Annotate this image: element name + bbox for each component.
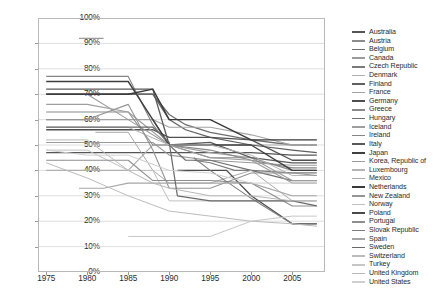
legend-item[interactable]: Norway xyxy=(352,200,434,209)
legend-item[interactable]: Italy xyxy=(352,140,434,149)
legend-swatch xyxy=(352,135,365,137)
legend-item[interactable]: Mexico xyxy=(352,174,434,183)
legend-label: Czech Republic xyxy=(369,62,418,71)
legend-item[interactable]: Canada xyxy=(352,54,434,63)
x-axis-tick-label: 1990 xyxy=(152,274,186,283)
legend-swatch xyxy=(352,169,365,171)
legend-label: Canada xyxy=(369,54,393,63)
legend-item[interactable]: Switzerland xyxy=(352,252,434,261)
legend-label: Australia xyxy=(369,28,396,37)
legend-item[interactable]: Denmark xyxy=(352,71,434,80)
legend-label: Japan xyxy=(369,149,388,158)
legend-swatch xyxy=(352,152,365,154)
x-axis-tick-label: 2005 xyxy=(275,274,309,283)
legend-swatch xyxy=(352,143,365,145)
legend-item[interactable]: Ireland xyxy=(352,131,434,140)
legend-swatch xyxy=(352,195,365,197)
plot-area xyxy=(38,18,325,272)
legend-item[interactable]: Belgium xyxy=(352,45,434,54)
legend-swatch xyxy=(352,126,365,128)
legend-label: Sweden xyxy=(369,243,394,252)
x-axis-tick-mark xyxy=(46,272,47,275)
legend: AustraliaAustriaBelgiumCanadaCzech Repub… xyxy=(352,28,434,286)
legend-item[interactable]: Australia xyxy=(352,28,434,37)
legend-label: Korea, Republic of xyxy=(369,157,426,166)
legend-swatch xyxy=(352,178,365,180)
legend-label: Switzerland xyxy=(369,252,405,261)
legend-swatch xyxy=(352,281,365,283)
legend-label: Poland xyxy=(369,209,391,218)
legend-item[interactable]: Poland xyxy=(352,209,434,218)
legend-item[interactable]: Germany xyxy=(352,97,434,106)
legend-label: Luxembourg xyxy=(369,166,408,175)
legend-label: Iceland xyxy=(369,123,391,132)
legend-swatch xyxy=(352,66,365,68)
legend-item[interactable]: Netherlands xyxy=(352,183,434,192)
legend-swatch xyxy=(352,255,365,257)
legend-swatch xyxy=(352,186,365,188)
legend-label: Italy xyxy=(369,140,382,149)
x-axis-tick-label: 2000 xyxy=(234,274,268,283)
legend-item[interactable]: Czech Republic xyxy=(352,62,434,71)
legend-label: Norway xyxy=(369,200,393,209)
legend-swatch xyxy=(352,221,365,223)
legend-item[interactable]: Turkey xyxy=(352,260,434,269)
legend-item[interactable]: United States xyxy=(352,278,434,287)
legend-swatch xyxy=(352,161,365,163)
legend-item[interactable]: Hungary xyxy=(352,114,434,123)
x-axis-tick-label: 1975 xyxy=(29,274,63,283)
legend-swatch xyxy=(352,31,365,33)
legend-item[interactable]: Spain xyxy=(352,235,434,244)
legend-item[interactable]: Greece xyxy=(352,105,434,114)
legend-item[interactable]: Korea, Republic of xyxy=(352,157,434,166)
legend-label: Mexico xyxy=(369,174,391,183)
legend-item[interactable]: Slovak Republic xyxy=(352,226,434,235)
x-axis-tick-mark xyxy=(292,272,293,275)
x-axis-tick-label: 1995 xyxy=(193,274,227,283)
chart-screenshot: 0%10%20%30%40%50%60%70%80%90%100% 197519… xyxy=(0,0,434,299)
legend-item[interactable]: Austria xyxy=(352,37,434,46)
legend-item[interactable]: Iceland xyxy=(352,123,434,132)
legend-label: Spain xyxy=(369,235,387,244)
legend-item[interactable]: Finland xyxy=(352,80,434,89)
legend-swatch xyxy=(352,273,365,275)
legend-swatch xyxy=(352,92,365,94)
x-axis-tick-mark xyxy=(128,272,129,275)
legend-label: Portugal xyxy=(369,217,395,226)
legend-swatch xyxy=(352,204,365,206)
legend-label: France xyxy=(369,88,391,97)
legend-swatch xyxy=(352,109,365,111)
legend-swatch xyxy=(352,212,365,214)
legend-label: Belgium xyxy=(369,45,394,54)
x-axis-tick-mark xyxy=(169,272,170,275)
x-axis-tick-mark xyxy=(87,272,88,275)
plot-border xyxy=(38,18,325,272)
x-axis-tick-label: 1985 xyxy=(111,274,145,283)
x-axis-tick-mark xyxy=(251,272,252,275)
legend-item[interactable]: New Zealand xyxy=(352,192,434,201)
legend-label: Austria xyxy=(369,37,391,46)
legend-label: Greece xyxy=(369,105,392,114)
legend-label: Turkey xyxy=(369,260,390,269)
legend-label: United States xyxy=(369,278,411,287)
legend-label: Denmark xyxy=(369,71,397,80)
legend-label: United Kingdom xyxy=(369,269,418,278)
legend-item[interactable]: France xyxy=(352,88,434,97)
legend-item[interactable]: Japan xyxy=(352,149,434,158)
x-axis-tick-label: 1980 xyxy=(70,274,104,283)
legend-label: Ireland xyxy=(369,131,390,140)
legend-swatch xyxy=(352,247,365,249)
legend-swatch xyxy=(352,49,365,51)
legend-swatch xyxy=(352,83,365,85)
legend-item[interactable]: Sweden xyxy=(352,243,434,252)
legend-label: Hungary xyxy=(369,114,395,123)
legend-label: Germany xyxy=(369,97,398,106)
legend-swatch xyxy=(352,238,365,240)
legend-item[interactable]: Portugal xyxy=(352,217,434,226)
legend-label: Finland xyxy=(369,80,392,89)
legend-item[interactable]: United Kingdom xyxy=(352,269,434,278)
legend-item[interactable]: Luxembourg xyxy=(352,166,434,175)
legend-swatch xyxy=(352,75,365,77)
legend-label: Netherlands xyxy=(369,183,406,192)
legend-swatch xyxy=(352,40,365,42)
